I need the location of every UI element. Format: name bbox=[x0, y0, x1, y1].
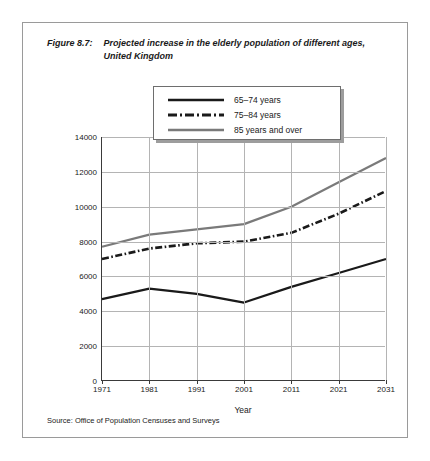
y-axis-tick-label: 4000 bbox=[79, 307, 97, 316]
x-axis-tick-label: 2031 bbox=[377, 385, 395, 394]
legend-item-label: 65–74 years bbox=[234, 95, 281, 105]
x-axis-tick-label: 1981 bbox=[140, 385, 158, 394]
x-gridline bbox=[386, 137, 387, 380]
legend-key-swatch bbox=[168, 110, 224, 120]
x-gridline bbox=[197, 137, 198, 380]
x-axis-tick-mark bbox=[291, 380, 292, 384]
x-axis-tick-mark bbox=[339, 380, 340, 384]
figure-frame: Figure 8.7: Projected increase in the el… bbox=[22, 22, 408, 438]
y-axis-tick-label: 8000 bbox=[79, 237, 97, 246]
x-axis-tick-label: 2001 bbox=[235, 385, 253, 394]
y-axis-tick-label: 2000 bbox=[79, 342, 97, 351]
legend-item: 75–84 years bbox=[154, 108, 340, 122]
chart-legend: 65–74 years75–84 years85 years and over bbox=[153, 86, 341, 140]
legend-key-swatch bbox=[168, 125, 224, 135]
legend-key-swatch bbox=[168, 95, 224, 105]
x-axis-tick-label: 2011 bbox=[283, 385, 300, 394]
y-axis-tick-label: 12000 bbox=[75, 167, 97, 176]
x-axis-title: Year bbox=[101, 405, 385, 415]
legend-item-label: 75–84 years bbox=[234, 110, 281, 120]
x-axis-tick-mark bbox=[244, 380, 245, 384]
x-axis-tick-mark bbox=[197, 380, 198, 384]
y-axis-tick-label: 6000 bbox=[79, 272, 97, 281]
legend-item-label: 85 years and over bbox=[234, 125, 302, 135]
x-gridline bbox=[149, 137, 150, 380]
y-axis-tick-label: 14000 bbox=[75, 133, 97, 142]
x-axis-tick-label: 1971 bbox=[93, 385, 111, 394]
plot-area: 0200040006000800010000120001400019711981… bbox=[101, 137, 385, 381]
chart-container: Population in thousands 0200040006000800… bbox=[23, 23, 409, 439]
x-axis-tick-mark bbox=[102, 380, 103, 384]
x-gridline bbox=[339, 137, 340, 380]
y-axis-tick-label: 10000 bbox=[75, 202, 97, 211]
x-axis-tick-mark bbox=[386, 380, 387, 384]
legend-item: 85 years and over bbox=[154, 123, 340, 137]
source-note: Source: Office of Population Censuses an… bbox=[47, 416, 219, 425]
legend-item: 65–74 years bbox=[154, 93, 340, 107]
x-gridline bbox=[291, 137, 292, 380]
x-gridline bbox=[244, 137, 245, 380]
x-axis-tick-label: 1991 bbox=[188, 385, 206, 394]
x-axis-tick-label: 2021 bbox=[330, 385, 348, 394]
x-axis-tick-mark bbox=[149, 380, 150, 384]
